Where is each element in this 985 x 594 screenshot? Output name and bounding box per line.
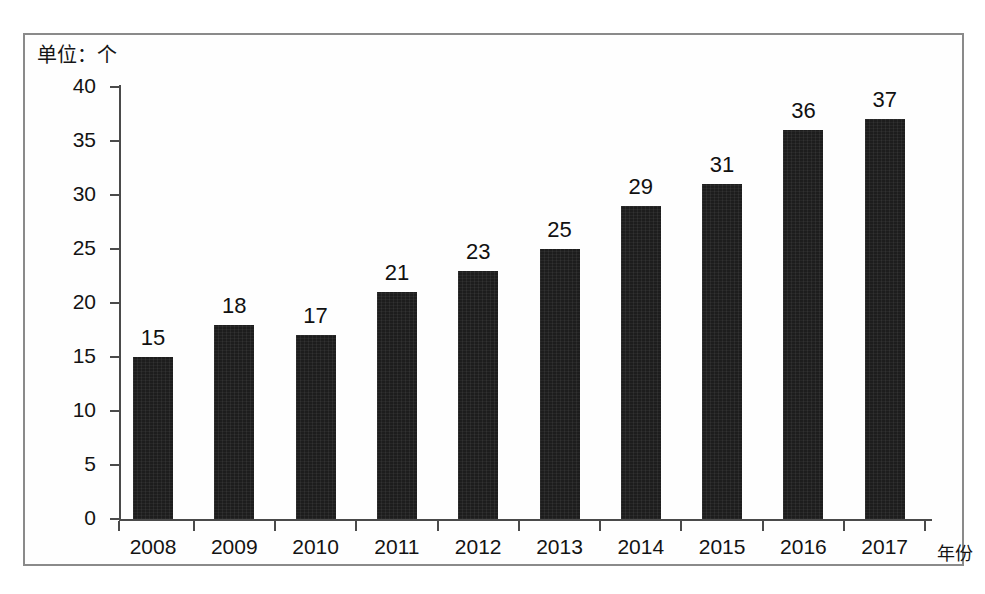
y-axis-tick-label: 35 <box>73 128 96 152</box>
bar: 21 <box>377 292 417 519</box>
y-axis-tick-label: 10 <box>73 398 96 422</box>
x-axis-tick <box>762 521 764 531</box>
bar-value-label: 31 <box>710 152 734 178</box>
bar: 36 <box>783 130 823 519</box>
bar-value-label: 17 <box>303 303 327 329</box>
y-axis-tick: 10 <box>110 410 119 412</box>
x-axis-category-label: 2017 <box>861 535 908 559</box>
x-axis-category-label: 2012 <box>455 535 502 559</box>
y-axis-tick: 15 <box>110 356 119 358</box>
bar-value-label: 37 <box>872 87 896 113</box>
bar-value-label: 25 <box>547 217 571 243</box>
x-axis-tick <box>274 521 276 531</box>
x-axis-title: 年份 <box>937 539 973 565</box>
x-axis-tick <box>437 521 439 531</box>
x-axis-tick <box>193 521 195 531</box>
x-axis-tick <box>843 521 845 531</box>
x-axis-tick <box>924 521 926 531</box>
bar: 37 <box>865 119 905 519</box>
x-axis-category-label: 2009 <box>211 535 258 559</box>
y-axis-tick: 35 <box>110 140 119 142</box>
x-axis-tick <box>599 521 601 531</box>
bar: 17 <box>296 335 336 519</box>
x-axis-tick <box>118 521 120 531</box>
x-axis-tick <box>355 521 357 531</box>
bar-value-label: 18 <box>222 293 246 319</box>
y-axis-tick-label: 25 <box>73 236 96 260</box>
y-axis-tick-label: 30 <box>73 182 96 206</box>
bar: 18 <box>214 325 254 519</box>
x-axis-category-label: 2015 <box>699 535 746 559</box>
x-axis-category-label: 2008 <box>130 535 177 559</box>
x-axis-tick <box>680 521 682 531</box>
y-axis-tick: 0 <box>110 518 119 520</box>
y-axis-tick: 20 <box>110 302 119 304</box>
x-axis-line <box>119 519 932 521</box>
x-axis-category-label: 2014 <box>617 535 664 559</box>
chart-figure: 单位：个 0510152025303540 151817212325293136… <box>23 33 964 566</box>
y-axis-tick-label: 5 <box>84 452 96 476</box>
bar-value-label: 23 <box>466 239 490 265</box>
bar: 29 <box>621 206 661 519</box>
y-axis-tick: 25 <box>110 248 119 250</box>
x-axis-tick <box>518 521 520 531</box>
y-axis-tick: 30 <box>110 194 119 196</box>
y-axis-tick: 5 <box>110 464 119 466</box>
bar: 15 <box>133 357 173 519</box>
x-axis-category-label: 2010 <box>292 535 339 559</box>
y-axis-tick-label: 0 <box>84 506 96 530</box>
y-axis-tick-label: 20 <box>73 290 96 314</box>
bar-value-label: 36 <box>791 98 815 124</box>
y-axis-tick: 40 <box>110 86 119 88</box>
x-axis-category-label: 2016 <box>780 535 827 559</box>
bar-value-label: 21 <box>385 260 409 286</box>
y-axis-line <box>119 85 121 521</box>
x-axis-category-label: 2011 <box>374 535 419 559</box>
bar: 31 <box>702 184 742 519</box>
bar: 23 <box>458 271 498 519</box>
x-axis-category-label: 2013 <box>536 535 583 559</box>
plot-area: 0510152025303540 15181721232529313637 20… <box>119 87 932 519</box>
bar: 25 <box>540 249 580 519</box>
bar-value-label: 15 <box>141 325 165 351</box>
bar-value-label: 29 <box>629 174 653 200</box>
unit-caption: 单位：个 <box>37 39 117 68</box>
y-axis-tick-label: 15 <box>73 344 96 368</box>
y-axis-tick-label: 40 <box>73 74 96 98</box>
